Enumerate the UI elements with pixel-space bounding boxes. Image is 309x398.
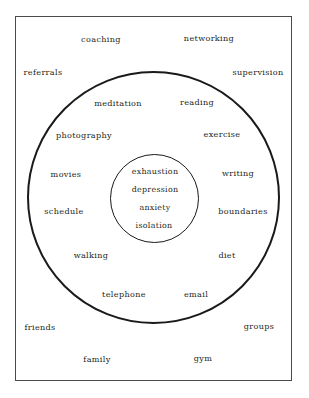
ring-word-schedule: schedule bbox=[44, 207, 83, 215]
core-word-exhaustion: exhaustion bbox=[132, 168, 179, 176]
outer-word-coaching: coaching bbox=[81, 35, 121, 43]
ring-word-writing: writing bbox=[222, 169, 254, 177]
core-word-isolation: isolation bbox=[136, 222, 173, 230]
outer-word-supervision: supervision bbox=[232, 68, 283, 76]
outer-word-referrals: referrals bbox=[24, 68, 63, 76]
outer-word-groups: groups bbox=[244, 322, 275, 330]
core-word-depression: depression bbox=[132, 186, 179, 194]
core-word-anxiety: anxiety bbox=[139, 204, 170, 212]
ring-word-meditation: meditation bbox=[94, 99, 142, 107]
ring-word-boundaries: boundaries bbox=[218, 207, 267, 215]
outer-word-gym: gym bbox=[194, 354, 212, 362]
outer-word-friends: friends bbox=[24, 323, 55, 331]
diagram-canvas: exhaustion depression anxiety isolation … bbox=[0, 0, 309, 398]
ring-word-diet: diet bbox=[218, 251, 235, 259]
outer-word-networking: networking bbox=[184, 34, 234, 42]
ring-word-walking: walking bbox=[74, 251, 109, 259]
ring-word-movies: movies bbox=[51, 170, 82, 178]
ring-word-exercise: exercise bbox=[204, 130, 241, 138]
ring-word-email: email bbox=[184, 290, 208, 298]
ring-word-telephone: telephone bbox=[102, 290, 146, 298]
ring-word-photography: photography bbox=[56, 131, 112, 139]
ring-word-reading: reading bbox=[180, 98, 214, 106]
outer-word-family: family bbox=[83, 355, 110, 363]
